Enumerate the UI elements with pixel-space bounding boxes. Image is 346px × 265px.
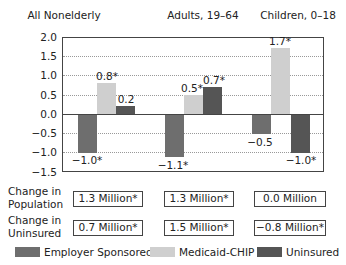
uninsured-all: 0.7 Million* — [73, 220, 143, 236]
legend-label-medicaid: Medicaid-CHIP — [179, 246, 254, 258]
legend-label-employer: Employer Sponsored — [44, 246, 153, 258]
bar-employer-children — [252, 115, 271, 134]
bar-uninsured-children — [291, 115, 310, 153]
gridline — [63, 152, 323, 153]
group-title-children: Children, 0–18 — [250, 9, 346, 21]
row-label-uninsured-2: Uninsured — [8, 227, 61, 239]
legend-label-uninsured: Uninsured — [286, 246, 339, 258]
value-label: −1.0* — [67, 154, 107, 166]
value-label: 0.2 — [106, 93, 146, 105]
value-label: 0.8* — [87, 70, 127, 82]
y-tick: 0.5 — [17, 89, 57, 101]
population-children: 0.0 Million — [254, 191, 326, 207]
bar-uninsured-all — [116, 106, 135, 114]
zero-line — [63, 114, 323, 115]
y-tick: 0.0 — [17, 108, 57, 120]
y-tick: 1.5 — [17, 50, 57, 62]
row-label-uninsured-1: Change in — [8, 214, 61, 226]
value-label: −1.0* — [281, 154, 321, 166]
value-label: −0.5 — [240, 136, 280, 148]
bar-employer-all — [78, 115, 97, 153]
uninsured-adults: 1.5 Million* — [164, 220, 234, 236]
y-tick: 1.0 — [17, 69, 57, 81]
bar-employer-adults — [165, 115, 184, 157]
gridline — [63, 133, 323, 134]
value-label: 0.7* — [194, 74, 234, 86]
bar-medicaid-adults — [184, 95, 203, 114]
row-label-population-2: Population — [8, 198, 63, 210]
plot-area — [62, 37, 324, 172]
uninsured-children: −0.8 Million* — [254, 220, 326, 236]
legend-swatch-employer — [15, 247, 40, 257]
y-tick: −1.0 — [17, 146, 57, 158]
group-title-adults: Adults, 19–64 — [150, 9, 256, 21]
value-label: 1.7* — [260, 35, 300, 47]
legend-swatch-medicaid — [150, 247, 175, 257]
value-label: −1.1* — [153, 159, 193, 171]
legend-swatch-uninsured — [257, 247, 282, 257]
y-tick: 2.0 — [17, 31, 57, 43]
row-label-population-1: Change in — [8, 185, 61, 197]
y-tick: −1.5 — [17, 166, 57, 178]
y-tick: −0.5 — [17, 127, 57, 139]
population-adults: 1.3 Million* — [164, 191, 234, 207]
group-title-all-nonelderly: All Nonelderly — [6, 9, 122, 21]
bar-medicaid-children — [271, 48, 290, 114]
population-all: 1.3 Million* — [73, 191, 143, 207]
